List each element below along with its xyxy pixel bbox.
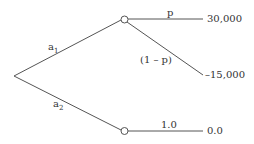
payoff-0: 0.0 [207,125,223,136]
chance-node-lower [121,128,128,135]
branch-a1 [14,20,121,76]
payoff-minus-15000: –15,000 [205,69,245,80]
payoff-30000: 30,000 [207,13,242,24]
decision-tree-diagram: a1 a2 p (1 – p) 1.0 30,000 –15,000 0.0 [0,0,254,144]
branch-a2 [14,76,121,130]
label-1-0: 1.0 [161,119,177,130]
decision-tree-svg: a1 a2 p (1 – p) 1.0 30,000 –15,000 0.0 [0,0,254,144]
label-a1: a1 [48,41,58,55]
label-p: p [167,7,173,18]
branch-1-minus-p [127,22,203,75]
label-1-minus-p: (1 – p) [140,54,172,65]
chance-node-upper [121,16,128,23]
